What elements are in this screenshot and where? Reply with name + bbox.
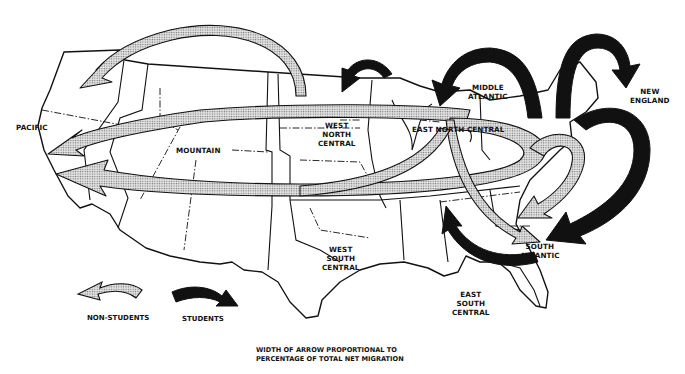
- region-label-south-atlantic: SOUTH ATLANTIC: [520, 242, 560, 260]
- legend-students-arrow-icon: [172, 287, 238, 306]
- legend-label-students: STUDENTS: [182, 315, 224, 323]
- legend-non-students-arrow-icon: [78, 282, 142, 300]
- region-label-east-north-central: EAST NORTH CENTRAL: [412, 125, 504, 134]
- region-label-west-south-central: WEST SOUTH CENTRAL: [322, 245, 359, 272]
- region-label-east-south-central: EAST SOUTH CENTRAL: [452, 290, 489, 317]
- legend: [78, 282, 238, 306]
- region-label-new-england: NEW ENGLAND: [630, 87, 670, 105]
- caption: WIDTH OF ARROW PROPORTIONAL TO PERCENTAG…: [256, 346, 404, 364]
- region-label-mountain: MOUNTAIN: [176, 146, 221, 155]
- region-label-pacific: PACIFIC: [16, 123, 48, 132]
- caption-line-1: WIDTH OF ARROW PROPORTIONAL TO: [256, 346, 404, 355]
- legend-label-non-students: NON-STUDENTS: [87, 314, 149, 322]
- region-label-middle-atlantic: MIDDLE ATLANTIC: [468, 83, 508, 101]
- caption-line-2: PERCENTAGE OF TOTAL NET MIGRATION: [256, 355, 404, 364]
- region-label-west-north-central: WEST NORTH CENTRAL: [318, 121, 355, 148]
- arrow-midatl-to-ne: [556, 34, 640, 118]
